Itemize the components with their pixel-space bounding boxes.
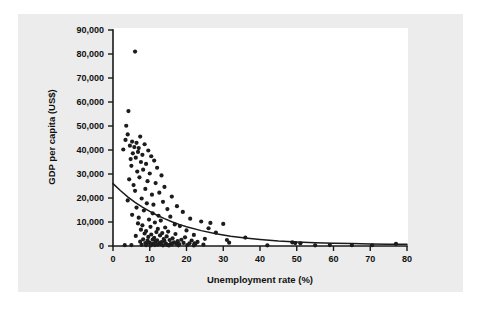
trend-line-curve [113,184,407,245]
y-axis-title: GDP per capita (US$) [46,89,57,184]
data-point [206,226,210,230]
data-point [173,232,177,236]
data-point [129,243,133,247]
data-point [126,109,130,113]
data-point [137,146,141,150]
data-point [154,230,158,234]
data-point [143,142,147,146]
y-tick-label: 60,000 [76,97,104,107]
y-tick-label: 80,000 [76,49,104,59]
data-point [129,157,133,161]
y-tick-label: 40,000 [76,145,104,155]
data-point [137,175,141,179]
data-point [130,213,134,217]
data-point [140,153,144,157]
data-point [132,145,136,149]
y-tick-label: 70,000 [76,73,104,83]
data-point [149,154,153,158]
data-point [150,193,154,197]
x-tick-label: 40 [255,254,265,264]
data-point [124,124,128,128]
data-point [162,185,166,189]
data-point [148,171,152,175]
data-point [152,158,156,162]
x-tick-label: 80 [402,254,412,264]
y-tick-label: 0 [99,241,104,251]
data-point [138,134,142,138]
data-point [131,183,135,187]
data-point [144,243,148,247]
data-point [126,132,130,136]
data-point [153,243,157,247]
x-tick-label: 0 [110,254,115,264]
data-point [147,218,151,222]
data-point [165,207,169,211]
data-point [131,151,135,155]
data-point [134,156,138,160]
data-point [140,196,144,200]
data-point [121,147,125,151]
y-tick-label: 20,000 [76,193,104,203]
data-point [129,164,133,168]
data-point [227,241,231,245]
data-point [148,225,152,229]
y-tick-label: 30,000 [76,169,104,179]
data-point [176,243,180,247]
data-point [155,166,159,170]
data-point [130,140,134,144]
data-point [167,243,171,247]
data-point [146,148,150,152]
data-point [146,235,150,239]
data-point [144,162,148,166]
y-axis-tick-labels: 010,00020,00030,00040,00050,00060,00070,… [76,25,104,251]
data-point [168,215,172,219]
x-tick-label: 70 [365,254,375,264]
y-tick-label: 50,000 [76,121,104,131]
x-tick-label: 10 [145,254,155,264]
y-tick-label: 90,000 [76,25,104,35]
x-tick-label: 20 [181,254,191,264]
data-point [139,228,143,232]
data-point [161,243,165,247]
data-point [123,138,127,142]
data-point [188,217,192,221]
data-point [127,177,131,181]
data-point [133,50,137,54]
data-point [123,243,127,247]
data-point [192,241,196,245]
y-tick-label: 10,000 [76,217,104,227]
x-axis-tick-labels: 01020304050607080 [110,254,412,264]
data-point [134,141,138,145]
data-point [141,168,145,172]
data-point [159,173,163,177]
scatter-chart: 010,00020,00030,00040,00050,00060,00070,… [0,0,481,317]
data-point [143,187,147,191]
data-point [158,233,162,237]
data-point [126,198,130,202]
data-point [133,189,137,193]
x-tick-label: 50 [292,254,302,264]
data-point [313,243,317,247]
data-point [128,144,132,148]
x-tick-label: 30 [218,254,228,264]
data-point [134,234,138,238]
data-point [265,243,269,247]
data-point [161,200,165,204]
data-point [163,225,167,229]
data-point [181,210,185,214]
data-point [184,228,188,232]
data-point [154,181,158,185]
data-point [199,219,203,223]
data-point [185,243,189,247]
data-point [192,233,196,237]
data-point [159,218,163,222]
data-point [183,235,187,239]
data-point [136,221,140,225]
data-point [157,191,161,195]
data-point [145,201,149,205]
data-point [151,203,155,207]
data-point [136,150,140,154]
data-point [201,243,205,247]
data-point [153,220,157,224]
data-point [134,206,138,210]
